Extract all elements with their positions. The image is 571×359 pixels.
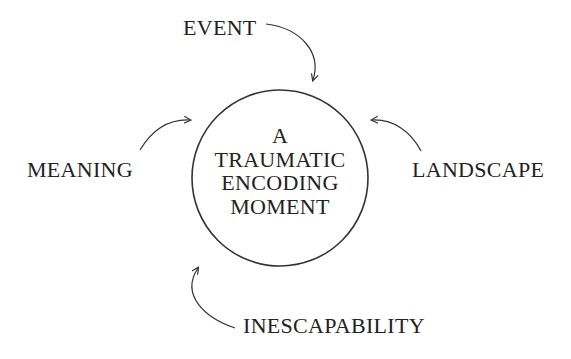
- center-line-4: MOMENT: [195, 195, 365, 219]
- center-label: A TRAUMATIC ENCODING MOMENT: [195, 124, 365, 218]
- arrow-event: [266, 24, 315, 80]
- arrow-landscape: [372, 120, 421, 151]
- center-line-2: TRAUMATIC: [195, 148, 365, 172]
- node-meaning: MEANING: [27, 159, 133, 181]
- node-landscape: LANDSCAPE: [412, 159, 544, 181]
- center-line-3: ENCODING: [195, 171, 365, 195]
- arrow-inescapability: [192, 268, 235, 328]
- node-event: EVENT: [183, 17, 257, 39]
- arrow-meaning: [140, 120, 190, 150]
- node-inescapability: INESCAPABILITY: [243, 315, 425, 337]
- center-line-1: A: [195, 124, 365, 148]
